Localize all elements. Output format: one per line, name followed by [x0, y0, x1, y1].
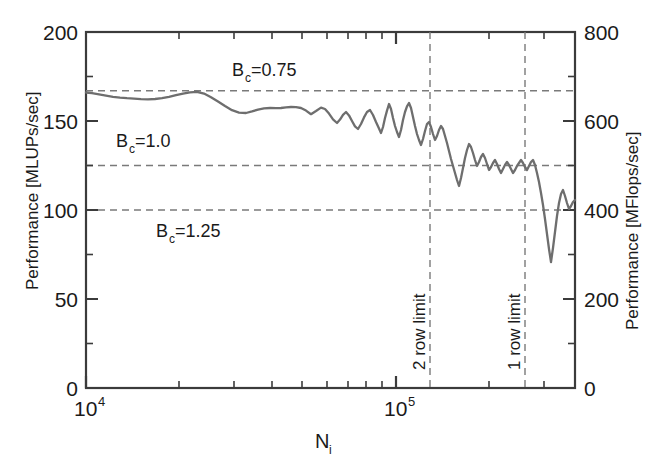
right-tick-200: 200	[584, 288, 619, 311]
annotation-bc-100-base: B	[116, 131, 128, 151]
performance-chart: 200 150 100 50 0 800 600 400 200 0 10 4 …	[0, 0, 660, 463]
annotation-bc-075-rest: =0.75	[251, 60, 297, 80]
annotation-bc-125-rest: =1.25	[175, 221, 221, 241]
right-tick-800: 800	[584, 21, 619, 44]
x-tick-1e4-exponent: 4	[98, 394, 105, 409]
annotation-bc-075-base: B	[232, 60, 244, 80]
left-tick-200: 200	[43, 21, 78, 44]
x-tick-1e4-mantissa: 10	[74, 397, 97, 420]
left-tick-100: 100	[43, 199, 78, 222]
annotation-1-row-limit: 1 row limit	[505, 293, 524, 370]
x-axis-tick-labels: 10 4 10 5	[74, 394, 415, 420]
left-axis-tick-labels: 200 150 100 50 0	[43, 21, 78, 400]
left-tick-50: 50	[55, 288, 78, 311]
right-tick-600: 600	[584, 110, 619, 133]
x-axis-title: N i	[315, 430, 332, 457]
x-axis-title-base: N	[315, 430, 329, 452]
annotation-bc-125-base: B	[156, 221, 168, 241]
x-tick-label-1e4: 10 4	[74, 394, 105, 420]
x-axis-title-sub: i	[329, 443, 332, 457]
right-tick-0: 0	[584, 377, 596, 400]
chart-figure: 200 150 100 50 0 800 600 400 200 0 10 4 …	[0, 0, 660, 463]
x-tick-label-1e5: 10 5	[384, 394, 415, 420]
y-axis-title-left: Performance [MLUPs/sec]	[23, 92, 42, 290]
left-tick-150: 150	[43, 110, 78, 133]
right-axis-tick-labels: 800 600 400 200 0	[584, 21, 619, 400]
x-tick-1e5-mantissa: 10	[384, 397, 407, 420]
right-tick-400: 400	[584, 199, 619, 222]
annotation-2-row-limit: 2 row limit	[410, 293, 429, 370]
annotation-bc-100-rest: =1.0	[135, 131, 171, 151]
x-tick-1e5-exponent: 5	[408, 394, 415, 409]
y-axis-title-right: Performance [MFlops/sec]	[623, 132, 642, 330]
